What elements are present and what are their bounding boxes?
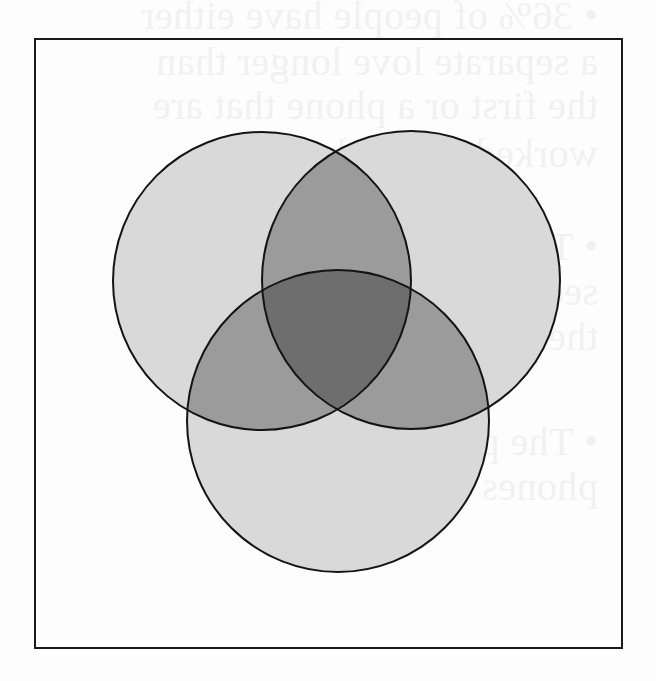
page: • 36% of people have either a separate l…	[0, 0, 656, 681]
venn-diagram	[0, 0, 656, 681]
